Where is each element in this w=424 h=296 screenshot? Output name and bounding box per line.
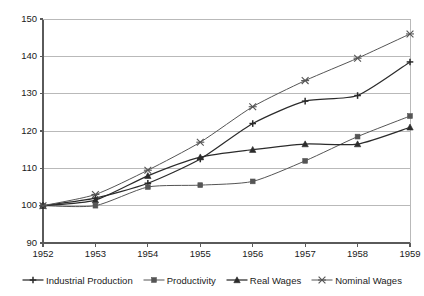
x-axis-tick-label: 1958 [335,249,381,259]
x-axis-tick-label: 1952 [20,249,66,259]
series-nominal-wages [39,31,414,210]
y-axis-tick-label: 150 [6,14,37,24]
y-axis-tick-label: 110 [6,163,37,173]
x-axis-tick-label: 1953 [72,249,118,259]
y-axis-tick-label: 120 [6,126,37,136]
x-axis-tick-label: 1954 [125,249,171,259]
x-axis-tick-label: 1955 [177,249,223,259]
y-axis-tick-label: 90 [6,238,37,248]
line-chart: 15014013012011010090 1952195319541955195… [0,0,424,296]
legend-item-industrial-production[interactable]: Industrial Production [22,273,133,287]
square-marker [143,274,165,286]
plus-marker [22,274,44,286]
legend-label: Nominal Wages [333,275,402,286]
series-industrial-production [40,59,414,209]
data-series-layer [39,31,414,210]
triangle-marker [226,274,248,286]
legend-label: Real Wages [248,275,301,286]
legend-item-nominal-wages[interactable]: Nominal Wages [311,273,402,287]
y-axis-tick-label: 130 [6,88,37,98]
legend-label: Industrial Production [44,275,133,286]
y-axis-tick-label: 100 [6,200,37,210]
legend-item-productivity[interactable]: Productivity [143,273,216,287]
gridlines [43,19,410,206]
x-marker [311,274,333,286]
legend-item-real-wages[interactable]: Real Wages [226,273,301,287]
legend-label: Productivity [165,275,216,286]
x-axis-tick-label: 1957 [282,249,328,259]
y-axis-tick-label: 140 [6,51,37,61]
x-axis-tick-label: 1959 [387,249,424,259]
chart-legend: Industrial ProductionProductivityReal Wa… [0,272,424,288]
x-axis-tick-label: 1956 [230,249,276,259]
